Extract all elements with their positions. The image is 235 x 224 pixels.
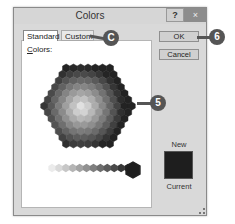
ok-button[interactable]: OK — [159, 31, 199, 42]
current-color-label: Current — [159, 182, 199, 191]
help-button[interactable]: ? — [166, 8, 184, 22]
callout-6: 6 — [209, 29, 225, 45]
close-button[interactable]: × — [184, 8, 207, 22]
standard-tab-panel: Colors: — [21, 40, 152, 208]
resize-grip-icon[interactable] — [199, 208, 205, 214]
cancel-button[interactable]: Cancel — [159, 49, 199, 60]
colors-label: Colors: — [27, 45, 52, 54]
title-bar[interactable]: Colors ? × — [14, 8, 206, 24]
callout-c: C — [103, 30, 119, 46]
dialog-title: Colors — [14, 10, 166, 21]
new-color-label: New — [159, 140, 199, 149]
color-hexagon-picker[interactable] — [32, 56, 144, 200]
callout-5: 5 — [150, 95, 166, 111]
color-preview-swatch — [164, 151, 193, 179]
tab-standard[interactable]: Standard — [23, 30, 58, 41]
